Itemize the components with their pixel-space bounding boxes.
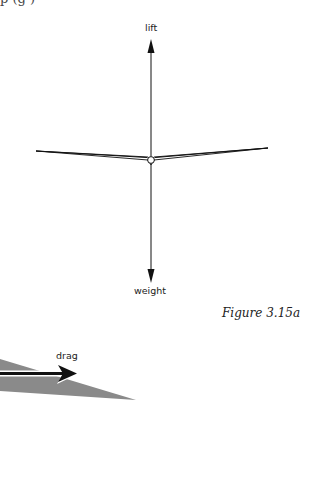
lift-arrow — [148, 39, 155, 156]
figure-caption: Figure 3.15a — [222, 306, 300, 320]
force-diagram — [0, 0, 311, 500]
lift-label: lift — [145, 22, 157, 33]
weight-label: weight — [134, 285, 166, 296]
weight-arrow — [148, 164, 155, 283]
wing-side-wedge — [0, 359, 136, 400]
drag-label: drag — [56, 350, 78, 361]
center-of-gravity-icon — [148, 157, 155, 164]
